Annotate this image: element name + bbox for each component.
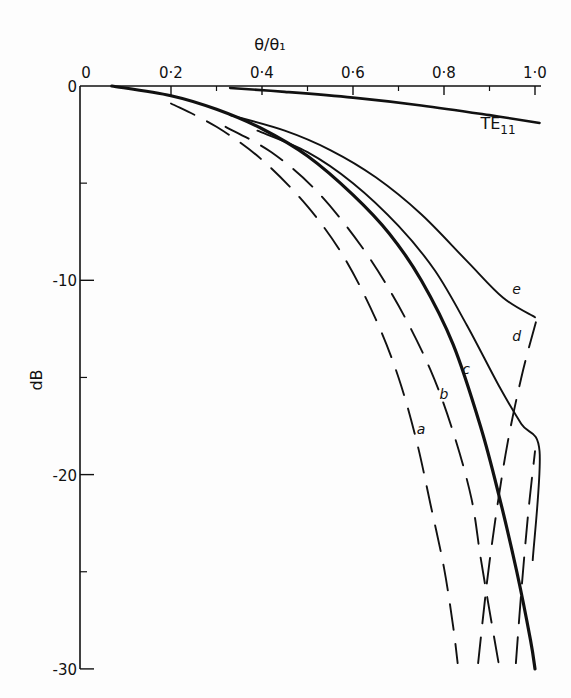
series-label-c: c <box>462 361 470 377</box>
series-c <box>112 86 535 669</box>
y-axis-title: dB <box>27 369 46 390</box>
series-label-b: b <box>439 386 448 402</box>
series-label-e: e <box>512 281 521 297</box>
x-tick-label: 0·4 <box>250 64 274 82</box>
x-tick-label: 0 <box>81 64 91 82</box>
ticks: 00·20·40·60·81·00-10-20-30 <box>53 64 547 679</box>
y-tick-label: 0 <box>67 78 77 96</box>
chart: θ/θ₁ dB 00·20·40·60·81·00-10-20-30 TE11c… <box>0 0 571 698</box>
axes <box>80 86 541 669</box>
series-layer <box>112 86 540 669</box>
x-tick-label: 1·0 <box>523 64 547 82</box>
series-label-a: a <box>417 421 426 437</box>
series-a <box>171 103 458 663</box>
x-tick-label: 0·6 <box>341 64 365 82</box>
y-tick-label: -20 <box>53 467 78 485</box>
y-tick-label: -30 <box>53 661 78 679</box>
x-tick-label: 0·2 <box>159 64 183 82</box>
y-tick-label: -10 <box>53 272 78 290</box>
series-b <box>226 127 499 663</box>
series-label-d: d <box>512 328 521 344</box>
x-axis-title: θ/θ₁ <box>254 35 285 54</box>
series-c-dashed-return <box>478 317 537 663</box>
x-tick-label: 0·8 <box>432 64 456 82</box>
series-e <box>230 115 535 317</box>
